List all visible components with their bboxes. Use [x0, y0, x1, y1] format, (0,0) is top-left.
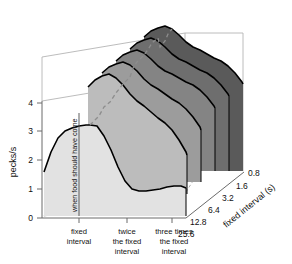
z-tick-label-6p4: 6.4	[208, 205, 220, 215]
z-tick-label-3p2: 3.2	[222, 193, 234, 203]
y-axis-title: pecks/s	[8, 146, 18, 177]
annotation-when-food-should-have-come: when food should have come	[70, 118, 79, 213]
x-tick-label-group-1: fixed interval	[67, 227, 92, 246]
z-tick-label-0p8: 0.8	[248, 168, 260, 178]
x-label-1-line-1: fixed	[71, 227, 87, 236]
y-tick-label-2: 2	[28, 155, 33, 165]
y-axis: 0 1 2 3 4 pecks/s	[8, 98, 42, 223]
x-label-2-line-2: the fixed	[113, 237, 142, 246]
z-tick-label-25p6: 25.6	[178, 229, 195, 239]
z-tick-label-1p6: 1.6	[236, 181, 248, 191]
x-label-2-line-3: interval	[115, 247, 140, 256]
chart-figure: 0 1 2 3 4 pecks/s fixed interval twice t…	[0, 0, 292, 264]
x-label-1-line-2: interval	[67, 237, 92, 246]
x-tick-label-group-2: twice the fixed interval	[113, 227, 142, 256]
y-tick-label-1: 1	[28, 184, 33, 194]
x-label-3-line-3: interval	[162, 247, 187, 256]
y-tick-label-0: 0	[28, 213, 33, 223]
z-tick-label-12p8: 12.8	[190, 217, 207, 227]
x-axis: fixed interval twice the fixed interval …	[42, 218, 193, 256]
ridgeline-3d-chart: 0 1 2 3 4 pecks/s fixed interval twice t…	[0, 0, 292, 264]
z-axis-title: fixed interval (s)	[221, 182, 277, 230]
annotation-label: when food should have come	[70, 118, 79, 213]
y-tick-label-4: 4	[28, 98, 33, 108]
y-tick-label-3: 3	[28, 126, 33, 136]
x-label-2-line-1: twice	[118, 227, 135, 236]
